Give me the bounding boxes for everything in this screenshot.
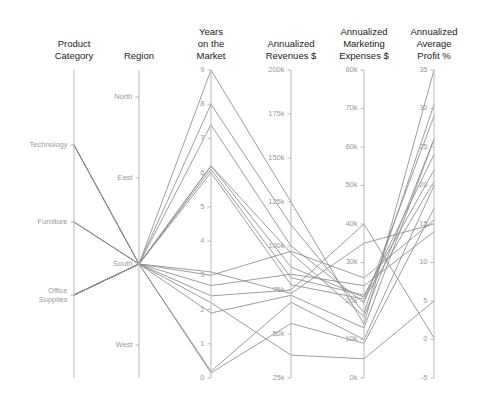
tick-label: 15 [419,219,427,228]
tick-label: 75k [272,285,284,294]
tick-label: 2 [200,305,204,314]
series-line [74,224,434,338]
tick-label: 4 [200,236,204,245]
series-lines-layer [74,70,434,373]
axes-layer: TechnologyFurnitureOfficeSuppliesNorthEa… [30,65,434,382]
axis-title-years_on_market: Yearson theMarket [196,26,225,61]
tick-label: 6 [200,168,204,177]
tick-label: 25k [272,373,284,382]
tick-label: 25 [419,142,427,151]
series-line [74,104,434,312]
tick-label: 0 [423,334,427,343]
tick-label: 0k [350,373,358,382]
tick-label: 100k [268,241,285,250]
tick-label: 80k [345,65,357,74]
tick-label: 50k [345,180,357,189]
tick-label: 150k [268,153,285,162]
tick-label: 20 [419,180,427,189]
axis-title-region: Region [124,50,154,61]
tick-label: 30k [345,257,357,266]
tick-label: -5 [421,373,428,382]
tick-label: 200k [268,65,285,74]
tick-label: 1 [200,339,204,348]
axis-title-product_category: ProductCategory [55,38,94,61]
tick-label: 7 [200,133,204,142]
axis-titles-layer: ProductCategoryRegionYearson theMarketAn… [55,26,458,61]
series-line [74,173,434,299]
tick-label: South [113,259,133,268]
axis-title-annualized_marketing_expenses: AnnualizedMarketingExpenses $ [339,26,389,61]
tick-label: 40k [345,219,357,228]
tick-label: OfficeSupplies [39,285,68,304]
tick-label: 60k [345,142,357,151]
tick-label: 70k [345,103,357,112]
tick-label: 20k [345,296,357,305]
tick-label: Technology [30,140,68,149]
tick-label: 175k [268,109,285,118]
tick-label: 30 [419,103,427,112]
tick-label: 3 [200,270,204,279]
tick-label: 125k [268,197,285,206]
tick-label: 35 [419,65,427,74]
tick-label: Furniture [37,217,67,226]
tick-label: 0 [200,373,204,382]
tick-label: 8 [200,99,204,108]
tick-label: 10 [419,257,427,266]
axis-title-annualized_revenues: AnnualizedRevenues $ [266,38,317,61]
tick-label: East [117,173,133,182]
tick-label: 50k [272,329,284,338]
tick-label: North [114,92,132,101]
tick-label: 5 [200,202,204,211]
tick-label: 9 [200,65,204,74]
parallel-coordinates-chart: TechnologyFurnitureOfficeSuppliesNorthEa… [0,0,477,399]
tick-label: 5 [423,296,427,305]
tick-label: 10k [345,334,357,343]
axis-title-annualized_average_profit: AnnualizedAverageProfit % [410,26,457,61]
tick-label: West [116,340,134,349]
parallel-coordinates-plot-area: TechnologyFurnitureOfficeSuppliesNorthEa… [0,0,477,399]
